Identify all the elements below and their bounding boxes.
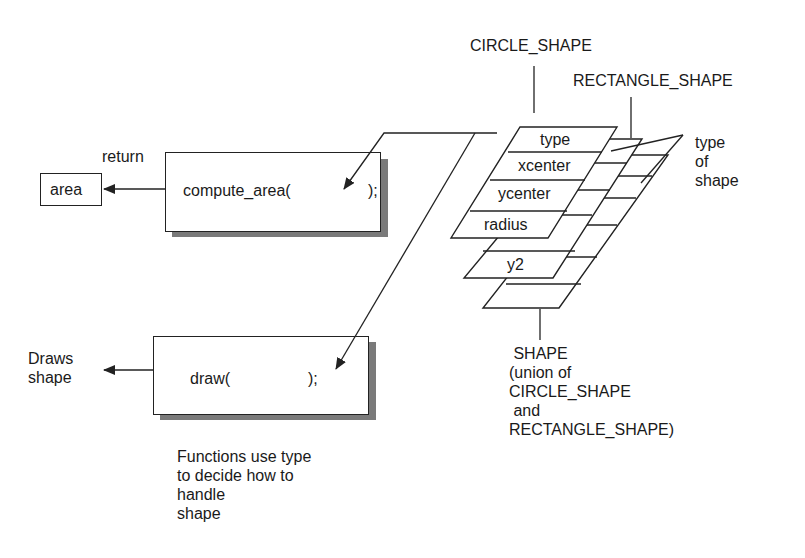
field-xcenter: xcenter <box>518 156 570 175</box>
field-radius: radius <box>484 215 528 234</box>
compute-area-call: compute_area( <box>183 181 291 200</box>
rectangle-shape-label: RECTANGLE_SHAPE <box>573 71 733 90</box>
draw-call: draw( <box>190 369 230 388</box>
circle-shape-label: CIRCLE_SHAPE <box>470 36 592 55</box>
return-label: return <box>102 147 144 166</box>
type-of-shape-label: type of shape <box>695 133 739 190</box>
draws-shape-label: Draws shape <box>28 349 73 387</box>
field-type: type <box>540 130 570 149</box>
area-label: area <box>50 180 82 199</box>
draw-close: ); <box>308 369 318 388</box>
shape-union-label: SHAPE (union of CIRCLE_SHAPE and RECTANG… <box>509 344 674 439</box>
field-y2: y2 <box>507 255 524 274</box>
functions-note: Functions use type to decide how to hand… <box>177 447 311 523</box>
compute-area-close: ); <box>368 181 378 200</box>
field-ycenter: ycenter <box>498 184 550 203</box>
